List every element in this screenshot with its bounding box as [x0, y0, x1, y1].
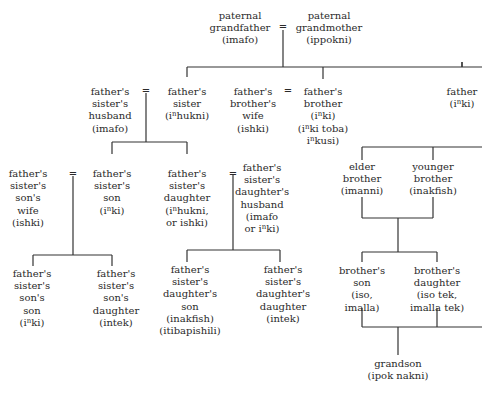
node-line: sister's	[238, 276, 328, 288]
node-line: (inakfish)	[388, 185, 478, 197]
node-line: inkusi)	[278, 135, 368, 147]
node-line: wife	[0, 205, 73, 217]
node-line: brother's	[392, 265, 482, 277]
node-fs-sons-son: father'ssister'sson'sson(inki)	[0, 268, 77, 329]
node-line: (inki)	[278, 110, 368, 122]
node-line: (inakfish)	[145, 313, 235, 325]
node-line: paternal	[195, 10, 285, 22]
node-grandson: grandson(ipok nakni)	[353, 358, 443, 382]
node-line: (inki)	[0, 317, 77, 329]
node-fathers-brother: father'sbrother(inki)(inki toba)inkusi)	[278, 86, 368, 147]
node-fs-daughters-son: father'ssister'sdaughter'sson(inakfish)(…	[145, 264, 235, 337]
node-line: father	[417, 86, 482, 98]
node-line: (imafo	[217, 211, 307, 223]
node-line: (ishki)	[0, 217, 73, 229]
node-fs-daughters-daughter: father'ssister'sdaughter'sdaughter(intek…	[238, 264, 328, 325]
node-fs-daughters-husband: father'ssister'sdaughter'shusband(imafoo…	[217, 162, 307, 235]
node-line: (imafo)	[195, 34, 285, 46]
node-line: father's	[0, 268, 77, 280]
node-line: grandson	[353, 358, 443, 370]
node-line: father's	[278, 86, 368, 98]
node-line: son's	[0, 292, 77, 304]
node-line: brother	[278, 98, 368, 110]
node-line: father's	[238, 264, 328, 276]
node-father: father(inki)	[417, 86, 482, 110]
node-line: sister's	[217, 174, 307, 186]
node-line: sister's	[0, 280, 77, 292]
node-line: daughter	[238, 301, 328, 313]
node-line: younger	[388, 161, 478, 173]
node-line: daughter's	[217, 186, 307, 198]
node-line: daughter	[392, 277, 482, 289]
node-line: (intek)	[238, 313, 328, 325]
node-paternal-grandfather: paternalgrandfather(imafo)	[195, 10, 285, 47]
node-line: son	[145, 301, 235, 313]
node-line: sister's	[0, 180, 73, 192]
node-line: (inki toba)	[278, 123, 368, 135]
node-line: husband	[217, 199, 307, 211]
node-line: father's	[145, 264, 235, 276]
node-line: (inki)	[417, 98, 482, 110]
node-line: daughter's	[238, 288, 328, 300]
node-fs-sons-wife: father'ssister'sson'swife(ishki)	[0, 168, 73, 229]
node-line: father's	[217, 162, 307, 174]
node-line: daughter's	[145, 288, 235, 300]
node-line: grandmother	[284, 22, 374, 34]
node-line: paternal	[284, 10, 374, 22]
node-line: (itibapishili)	[145, 325, 235, 337]
node-line: (imafo)	[65, 123, 155, 135]
node-line: son's	[0, 192, 73, 204]
node-line: sister's	[145, 276, 235, 288]
node-line: grandfather	[195, 22, 285, 34]
node-line: son	[0, 305, 77, 317]
node-paternal-grandmother: paternalgrandmother(ippokni)	[284, 10, 374, 47]
node-line: (ipok nakni)	[353, 370, 443, 382]
node-line: or inki)	[217, 223, 307, 235]
node-line: (iso tek,	[392, 289, 482, 301]
node-line: imalla tek)	[392, 302, 482, 314]
node-brothers-daughter: brother'sdaughter(iso tek,imalla tek)	[392, 265, 482, 314]
node-line: (ippokni)	[284, 34, 374, 46]
node-line: father's	[0, 168, 73, 180]
node-younger-brother: youngerbrother(inakfish)	[388, 161, 478, 198]
node-line: brother	[388, 173, 478, 185]
